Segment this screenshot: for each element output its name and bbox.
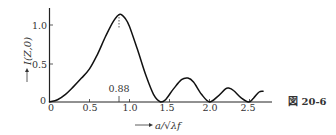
intensity-curve	[50, 14, 264, 102]
y-tick-label: 0	[40, 95, 46, 106]
intensity-chart: 1.0 0.5 0 0 0.5 1.0 1.5 2.0 2.5 0.88 I(Z…	[0, 0, 336, 135]
x-tick-label: 0	[48, 102, 54, 113]
x-tick-label: 1.0	[122, 102, 137, 113]
y-tick-labels: 1.0 0.5 0	[32, 20, 47, 107]
y-axis-label-group: I(Z,0)	[22, 37, 33, 82]
y-tick-label: 1.0	[32, 20, 47, 31]
x-tick-label: 2.5	[240, 102, 255, 113]
y-tick-label: 0.5	[32, 59, 47, 70]
x-tick-label: 0.5	[82, 102, 97, 113]
x-axis-arrowhead-icon	[149, 123, 153, 127]
x-tick-label: 2.0	[202, 102, 217, 113]
x-axis-label: a/√λf	[155, 120, 183, 131]
x-tick-label: 1.5	[159, 102, 174, 113]
x-tick-labels: 0 0.5 1.0 1.5 2.0 2.5	[48, 102, 256, 113]
y-axis-label: I(Z,0)	[22, 37, 33, 66]
y-axis-arrowhead-icon	[25, 68, 29, 72]
x-axis-label-group: a/√λf	[135, 120, 183, 131]
peak-annotation-label: 0.88	[108, 83, 129, 94]
figure-caption: 図 20-6	[288, 96, 327, 107]
